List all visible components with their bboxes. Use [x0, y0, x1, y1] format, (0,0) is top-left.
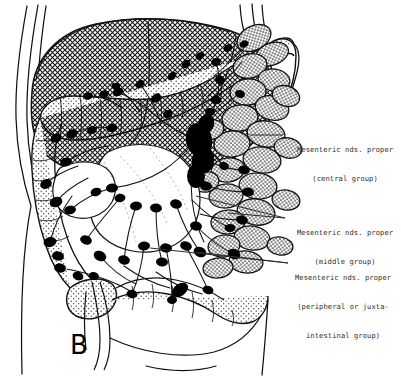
- label-peripheral-line-2: (peripheral or juxta-: [295, 302, 391, 312]
- label-mesenteric-nodes-central: Mesenteric nds. proper (central group): [297, 126, 393, 203]
- panel-letter: B: [70, 330, 88, 360]
- figure-panel-b: Mesenteric nds. proper (central group) M…: [0, 0, 401, 376]
- label-middle-line-1: Mesenteric nds. proper: [297, 228, 393, 238]
- label-central-line-2: (central group): [297, 174, 393, 184]
- label-peripheral-line-3: intestinal group): [295, 331, 391, 341]
- label-mesenteric-nodes-peripheral: Mesenteric nds. proper (peripheral or ju…: [295, 254, 391, 360]
- label-peripheral-line-1: Mesenteric nds. proper: [295, 273, 391, 283]
- label-central-line-1: Mesenteric nds. proper: [297, 145, 393, 155]
